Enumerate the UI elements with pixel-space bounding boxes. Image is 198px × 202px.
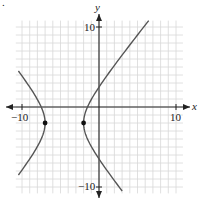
y-max-tick-label: 10 bbox=[84, 21, 96, 33]
x-max-tick-label: 10 bbox=[170, 111, 182, 123]
corner-mark: . bbox=[2, 0, 5, 8]
x-min-tick-label: −10 bbox=[11, 111, 29, 123]
hyperbola-right-branch bbox=[84, 21, 149, 191]
y-axis-up-arrow-icon bbox=[96, 14, 102, 21]
y-axis-label: y bbox=[94, 1, 100, 13]
vertex-right-point bbox=[81, 121, 86, 126]
vertex-left-point bbox=[43, 121, 48, 126]
axes bbox=[6, 14, 190, 198]
x-axis-right-arrow-icon bbox=[183, 104, 190, 110]
x-axis-left-arrow-icon bbox=[6, 104, 13, 110]
y-min-tick-label: −10 bbox=[78, 180, 96, 192]
hyperbola-graph: . y x −10 10 10 −10 bbox=[0, 0, 198, 202]
x-axis-label: x bbox=[191, 100, 197, 112]
y-axis-down-arrow-icon bbox=[96, 191, 102, 198]
